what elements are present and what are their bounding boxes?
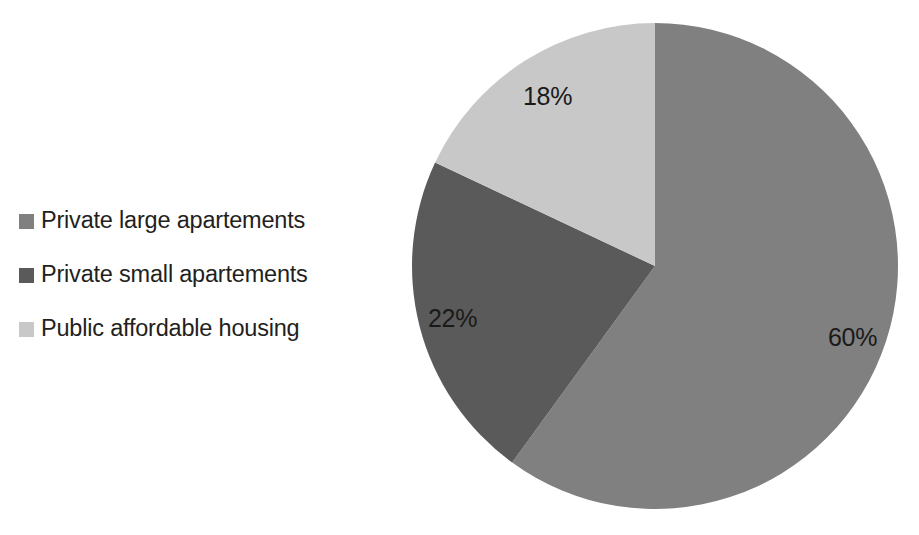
legend-item-label: Public affordable housing [41,317,299,341]
legend-item-label: Private small apartements [41,263,308,287]
legend-swatch-icon [19,214,34,229]
legend-item-public-affordable-housing[interactable]: Public affordable housing [19,302,379,356]
slice-label-public-affordable-housing: 18% [523,84,572,109]
legend-swatch-icon [19,268,34,283]
slice-label-private-small-apartements: 22% [428,306,477,331]
legend-item-private-large-apartements[interactable]: Private large apartements [19,194,379,248]
chart-legend: Private large apartements Private small … [19,194,379,356]
legend-item-label: Private large apartements [41,209,305,233]
pie-slice-group [412,23,898,509]
slice-label-private-large-apartements: 60% [828,325,877,350]
legend-swatch-icon [19,322,34,337]
pie-chart-figure: 18% 22% 60% Private large apartements Pr… [0,0,919,535]
legend-item-private-small-apartements[interactable]: Private small apartements [19,248,379,302]
